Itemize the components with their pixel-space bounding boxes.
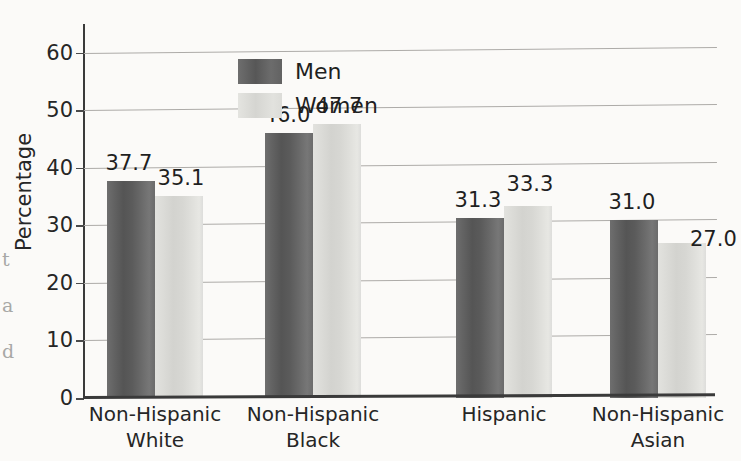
x-category-label-2: Non-Hispanic Black — [213, 402, 413, 453]
legend-item-men: Men — [238, 56, 378, 86]
gridline-50 — [83, 104, 717, 111]
gridline-60 — [83, 47, 717, 54]
y-tick-label-60: 60 — [46, 41, 73, 65]
y-tick-60 — [76, 53, 84, 55]
y-tick-20 — [76, 283, 84, 285]
legend-label-women: Women — [295, 93, 378, 118]
x-category-label-4: Non-Hispanic Asian — [558, 402, 741, 453]
legend-item-women: Women — [238, 90, 378, 120]
legend: Men Women — [238, 56, 378, 124]
bar-women-4 — [658, 243, 706, 398]
y-tick-30 — [76, 225, 84, 227]
legend-swatch-men-icon — [238, 59, 282, 84]
legend-swatch-women-icon — [238, 93, 282, 118]
bar-men-2 — [265, 133, 313, 398]
y-tick-label-40: 40 — [46, 156, 73, 180]
bar-women-3 — [504, 206, 552, 398]
bar-women-1 — [155, 196, 203, 398]
y-tick-10 — [76, 340, 84, 342]
bar-women-2 — [313, 124, 361, 398]
page-bleed-text: t a d — [2, 236, 18, 416]
bar-men-4 — [610, 220, 658, 398]
plot-area: 0102030405060 37.735.146.047.731.333.331… — [83, 24, 715, 398]
y-tick-40 — [76, 168, 84, 170]
y-axis-title: Percentage — [12, 133, 36, 251]
y-tick-label-30: 30 — [46, 213, 73, 237]
bar-value-label-women-1: 35.1 — [158, 166, 205, 190]
bar-men-3 — [456, 218, 504, 398]
y-tick-50 — [76, 110, 84, 112]
bar-value-label-men-3: 31.3 — [455, 188, 502, 212]
bar-men-1 — [107, 181, 155, 398]
bar-value-label-women-4: 27.0 — [690, 227, 737, 251]
bar-value-label-women-3: 33.3 — [507, 172, 554, 196]
y-tick-label-50: 50 — [46, 98, 73, 122]
y-tick-label-20: 20 — [46, 271, 73, 295]
y-tick-label-10: 10 — [46, 328, 73, 352]
legend-label-men: Men — [295, 59, 341, 84]
bar-value-label-men-4: 31.0 — [609, 190, 656, 214]
bar-value-label-men-1: 37.7 — [106, 151, 153, 175]
